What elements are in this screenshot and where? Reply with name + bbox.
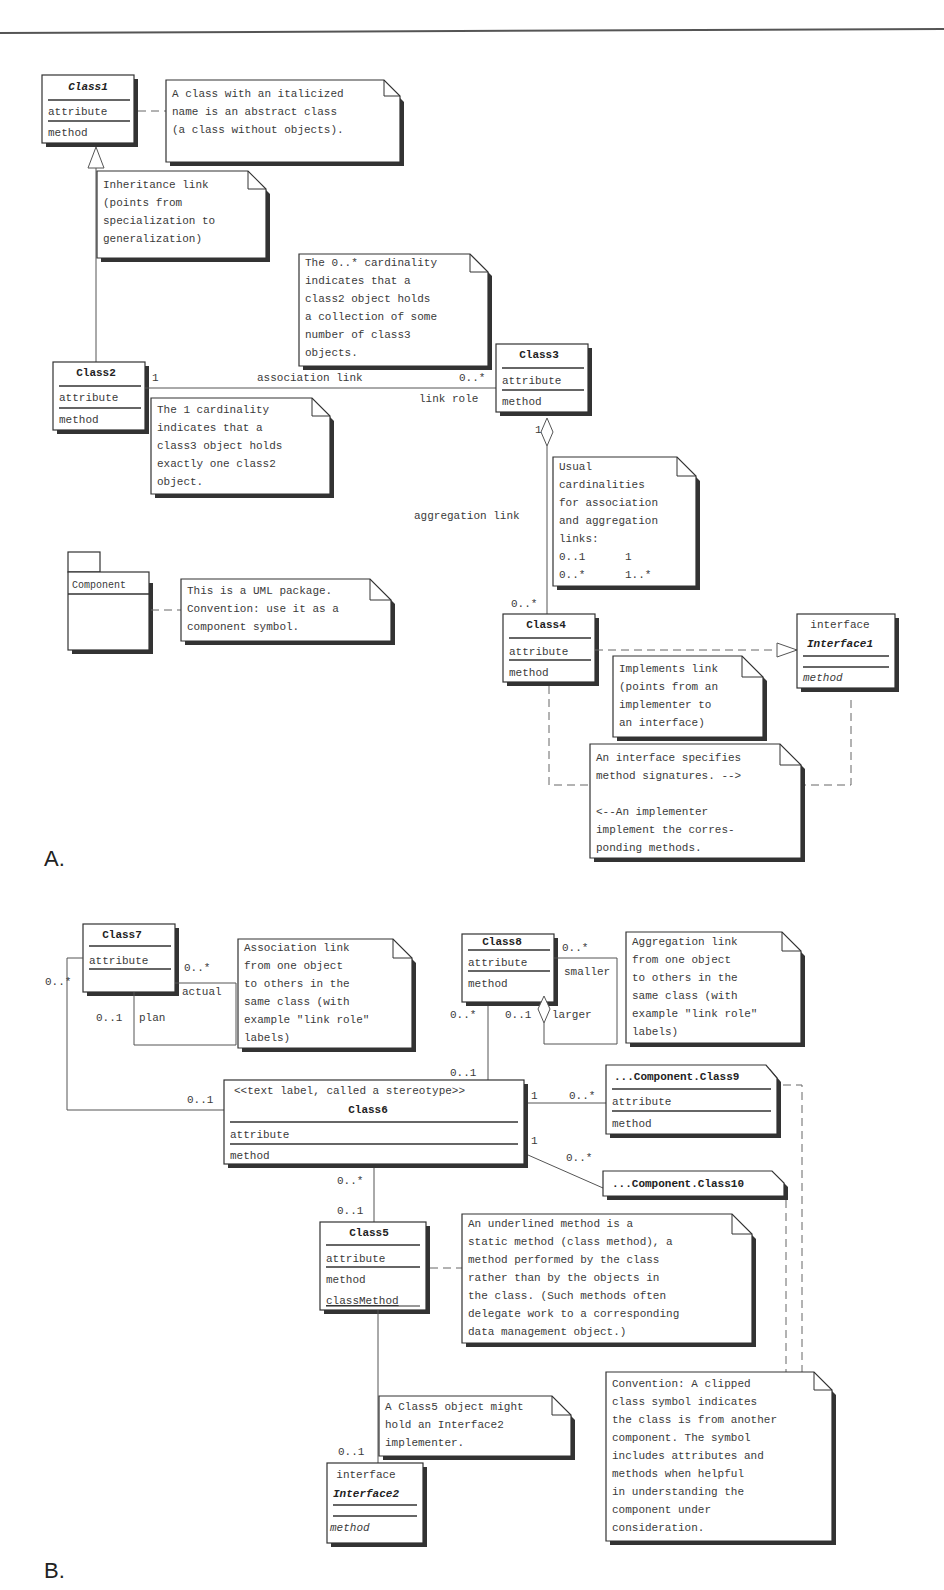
multiplicity-label: 0..*: [569, 1090, 595, 1102]
note-line: This is a UML package.: [187, 585, 332, 597]
class3-attribute: attribute: [502, 375, 561, 387]
uml-package-component[interactable]: Component: [68, 552, 153, 654]
note-interface: An interface specifies method signatures…: [590, 744, 805, 862]
note-line: A Class5 object might: [385, 1401, 524, 1413]
class9-attribute: attribute: [612, 1096, 671, 1108]
multiplicity-label: 0..*: [566, 1152, 592, 1164]
note-usual-cardinalities: Usual cardinalities for association and …: [553, 457, 700, 590]
note-aggregation-self: Aggregation link from one object to othe…: [626, 932, 805, 1047]
note-line: name is an abstract class: [172, 106, 337, 118]
note-line: static method (class method), a: [468, 1236, 673, 1248]
class5-box[interactable]: Class5 attribute method classMethod: [320, 1222, 430, 1314]
note-line: an interface): [619, 717, 705, 729]
note-cardinality-one: The 1 cardinality indicates that a class…: [151, 398, 334, 498]
interface1-box[interactable]: interface Interface1 method: [797, 614, 899, 692]
note-line: Aggregation link: [632, 936, 738, 948]
class3-box[interactable]: Class3 attribute method: [496, 344, 592, 416]
note-line: exactly one class2: [157, 458, 276, 470]
multiplicity-label: 0..*: [337, 1175, 363, 1187]
note-line: <--An implementer: [596, 806, 708, 818]
note-line: to others in the: [632, 972, 738, 984]
note-line: a collection of some: [305, 311, 437, 323]
association-label: association link: [257, 372, 363, 384]
note-line: (a class without objects).: [172, 124, 344, 136]
class6-method: method: [230, 1150, 270, 1162]
class7-name: Class7: [102, 929, 142, 941]
note-line: the class. (Such methods often: [468, 1290, 666, 1302]
top-rule: [0, 29, 944, 33]
multiplicity-label: 0..1: [187, 1094, 214, 1106]
note-line: method performed by the class: [468, 1254, 659, 1266]
class9-clipped-box[interactable]: ...Component.Class9 attribute method: [606, 1065, 781, 1138]
note-line: same class (with: [244, 996, 350, 1008]
class8-method: method: [468, 978, 508, 990]
note-line: An underlined method is a: [468, 1218, 633, 1230]
note-line: example "link role": [632, 1008, 757, 1020]
class7-attribute: attribute: [89, 955, 148, 967]
note-association-self: Association link from one object to othe…: [238, 939, 416, 1052]
class4-name: Class4: [526, 619, 566, 631]
note-line: data management object.): [468, 1326, 626, 1338]
class5-method: method: [326, 1274, 366, 1286]
note-line: same class (with: [632, 990, 738, 1002]
class6-stereotype: <<text label, called a stereotype>>: [234, 1085, 465, 1097]
note-line: from one object: [244, 960, 343, 972]
class1-box[interactable]: Class1 attribute method: [42, 75, 138, 147]
class5-name: Class5: [349, 1227, 389, 1239]
note-line: 0..1 1: [559, 551, 632, 563]
note-cardinality-many: The 0..* cardinality indicates that a cl…: [299, 254, 492, 370]
note-line: links:: [559, 533, 599, 545]
note-line: indicates that a: [157, 422, 263, 434]
multiplicity-label: 0..*: [562, 942, 588, 954]
class8-box[interactable]: Class8 attribute method: [462, 934, 558, 1006]
multiplicity-label: 0..*: [459, 372, 485, 384]
note-abstract-class: A class with an italicized name is an ab…: [166, 80, 404, 166]
multiplicity-label: 1: [152, 372, 159, 384]
multiplicity-label: 1: [531, 1135, 538, 1147]
note-line: the class is from another: [612, 1414, 777, 1426]
note-line: labels): [632, 1026, 678, 1038]
note-line: implementer.: [385, 1437, 464, 1449]
class7-box[interactable]: Class7 attribute: [83, 924, 179, 996]
class2-method: method: [59, 414, 99, 426]
note-line: hold an Interface2: [385, 1419, 504, 1431]
note-line: The 1 cardinality: [157, 404, 270, 416]
class1-attribute: attribute: [48, 106, 107, 118]
interface2-box[interactable]: interface Interface2 method: [327, 1463, 427, 1547]
interface1-method: method: [803, 672, 843, 684]
note-line: Convention: use it as a: [187, 603, 339, 615]
note-clipped-convention: Convention: A clipped class symbol indic…: [606, 1372, 836, 1545]
note-line: generalization): [103, 233, 202, 245]
multiplicity-label: 0..1: [338, 1446, 365, 1458]
class8-name: Class8: [482, 936, 522, 948]
link-role-label: plan: [139, 1012, 165, 1024]
interface1-stereotype: interface: [810, 619, 869, 631]
note-line: class2 object holds: [305, 293, 430, 305]
class2-attribute: attribute: [59, 392, 118, 404]
class9-method: method: [612, 1118, 652, 1130]
class10-clipped-box[interactable]: ...Component.Class10: [603, 1171, 788, 1200]
note-line: (points from an: [619, 681, 718, 693]
class1-name: Class1: [68, 81, 108, 93]
note-line: methods when helpful: [612, 1468, 744, 1480]
note-line: Association link: [244, 942, 350, 954]
class8-attribute: attribute: [468, 957, 527, 969]
note-line: implement the corres-: [596, 824, 735, 836]
class6-box[interactable]: <<text label, called a stereotype>> Clas…: [224, 1080, 528, 1168]
class2-box[interactable]: Class2 attribute method: [53, 362, 149, 434]
class4-method: method: [509, 667, 549, 679]
note-package: This is a UML package. Convention: use i…: [181, 579, 395, 645]
multiplicity-label: 1: [531, 1090, 538, 1102]
note-line: 0..* 1..*: [559, 569, 651, 581]
note-inheritance: Inheritance link (points from specializa…: [97, 171, 270, 262]
class10-name: ...Component.Class10: [612, 1178, 744, 1190]
multiplicity-label: 0..*: [450, 1009, 476, 1021]
aggregation-diamond-icon: [541, 418, 553, 446]
class4-box[interactable]: Class4 attribute method: [503, 614, 599, 686]
note-line: Convention: A clipped: [612, 1378, 751, 1390]
note-line: An interface specifies: [596, 752, 741, 764]
note-line: Usual: [559, 461, 592, 473]
note-line: (points from: [103, 197, 183, 209]
section-label-a: A.: [44, 846, 65, 871]
multiplicity-label: 0..*: [184, 962, 210, 974]
